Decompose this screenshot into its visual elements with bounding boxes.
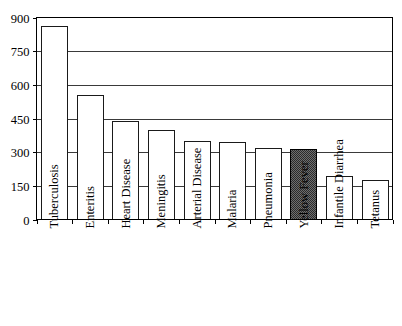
x-label-yellow-fever: Yellow Fever [297,161,311,229]
x-label-tetanus: Tetanus [368,190,382,229]
x-label-heart-disease: Heart Disease [119,158,133,228]
x-label-tuberculosis: Tuberculosis [47,164,61,228]
y-tick-label-0: 0 [23,214,29,228]
x-label-meningitis: Meningitis [154,174,168,228]
x-label-malaria: Malaria [225,189,239,228]
x-label-infantile-diarrhea: Infantile Diarrhea [332,139,346,229]
bar-chart: 0150300450600750900 TuberculosisEnteriti… [0,0,402,326]
y-tick-label-900: 900 [11,12,30,26]
y-axis-tick-labels: 0150300450600750900 [11,12,30,228]
x-label-arterial-disease: Arterial Disease [190,147,204,228]
y-axis-ticks [33,19,37,221]
y-tick-label-600: 600 [11,79,30,93]
y-tick-label-300: 300 [11,146,30,160]
y-tick-label-150: 150 [11,180,30,194]
y-tick-label-450: 450 [11,113,30,127]
chart-container: 0150300450600750900 TuberculosisEnteriti… [0,0,402,326]
x-label-enteritis: Enteritis [83,186,97,228]
x-label-pneumonia: Pneumonia [261,172,275,229]
y-tick-label-750: 750 [11,45,30,59]
